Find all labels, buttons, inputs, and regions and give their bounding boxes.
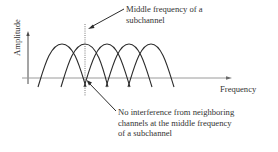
annotation-line: Middle frequency of a bbox=[126, 4, 203, 15]
subchannel-curves bbox=[38, 44, 174, 87]
bottom-annotation-arrow bbox=[87, 80, 117, 111]
no-interference-annotation: No interference from neighboring channel… bbox=[118, 107, 234, 139]
subchannel-curve-3 bbox=[84, 44, 130, 87]
y-axis-label: Amplitude bbox=[12, 19, 22, 56]
subchannel-curve-1 bbox=[38, 44, 86, 87]
x-axis-label: Frequency bbox=[220, 84, 256, 95]
annotation-line: subchannel bbox=[126, 15, 203, 26]
annotation-line: of a subchannel bbox=[118, 128, 234, 139]
y-axis bbox=[26, 31, 29, 84]
subchannel-curve-5 bbox=[128, 44, 174, 87]
top-annotation-arrow bbox=[88, 9, 124, 29]
annotation-line: channels at the middle frequency bbox=[118, 118, 234, 129]
x-axis-arrow-icon bbox=[226, 76, 232, 79]
subchannel-curve-4 bbox=[106, 44, 152, 87]
y-axis-arrow-icon bbox=[26, 31, 29, 36]
middle-frequency-annotation: Middle frequency of a subchannel bbox=[126, 4, 203, 25]
annotation-line: No interference from neighboring bbox=[118, 107, 234, 118]
